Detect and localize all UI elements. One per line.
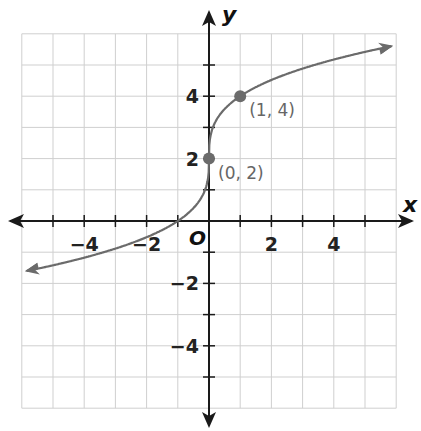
labels: x y O −4−22442−2−4(0, 2)(1, 4) (70, 2, 418, 357)
data-point (203, 153, 215, 165)
point-label: (1, 4) (249, 100, 295, 120)
coordinate-plane: x y O −4−22442−2−4(0, 2)(1, 4) (0, 0, 421, 431)
origin-label: O (189, 226, 206, 250)
x-tick-label: 4 (327, 233, 340, 255)
x-tick-label: −4 (70, 233, 99, 255)
y-tick-label: −2 (170, 272, 199, 294)
data-point (234, 90, 246, 102)
x-axis-label: x (402, 192, 418, 217)
y-tick-label: 2 (186, 148, 199, 170)
y-tick-label: −4 (170, 335, 199, 357)
y-tick-label: 4 (186, 85, 199, 107)
y-axis-label: y (222, 2, 238, 27)
x-tick-label: 2 (265, 233, 278, 255)
point-label: (0, 2) (218, 163, 264, 183)
x-tick-label: −2 (132, 233, 161, 255)
axes (8, 10, 414, 428)
